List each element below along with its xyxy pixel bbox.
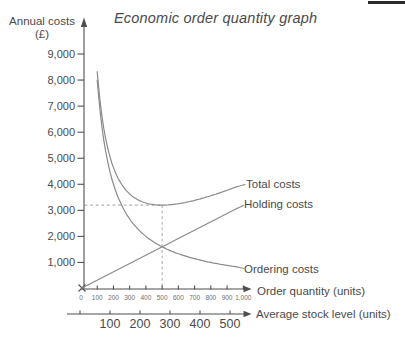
x2-tick-label: 500 (210, 318, 250, 331)
x-axis-arrow-icon (244, 286, 252, 292)
holding-costs-curve (81, 208, 237, 288)
holding-costs-leader-line (237, 206, 244, 209)
x-axis2-arrow-icon (244, 311, 252, 317)
y-tick-label: 1,000 (33, 256, 75, 268)
x-axis2-label: Average stock level (units) (256, 308, 391, 320)
y-tick-label: 4,000 (33, 178, 75, 190)
y-axis-arrow-icon (81, 18, 87, 28)
holding-costs-label: Holding costs (244, 198, 313, 210)
y-tick-label: 5,000 (33, 152, 75, 164)
y-tick-label: 8,000 (33, 74, 75, 86)
ordering-costs-curve (97, 80, 237, 267)
y-tick-label: 3,000 (33, 204, 75, 216)
y-tick-label: 9,000 (33, 48, 75, 60)
total-costs-label: Total costs (246, 178, 300, 190)
y-tick-label: 2,000 (33, 230, 75, 242)
ordering-costs-leader-line (237, 267, 244, 269)
total-costs-leader-line (237, 185, 245, 187)
x-axis-label: Order quantity (units) (257, 285, 365, 297)
y-tick-label: 7,000 (33, 100, 75, 112)
y-tick-label: 6,000 (33, 126, 75, 138)
eoq-graph-figure: Economic order quantity graph Annual cos… (0, 0, 405, 344)
x-tick-label: 1,000 (228, 294, 258, 301)
total-costs-curve (97, 72, 237, 205)
ordering-costs-label: Ordering costs (244, 263, 319, 275)
